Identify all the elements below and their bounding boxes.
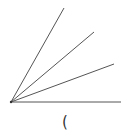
ray-line xyxy=(11,32,94,102)
ray-line xyxy=(11,64,114,102)
diagram-canvas: ( xyxy=(0,0,129,138)
origin-point xyxy=(10,101,12,103)
angle-label: ( xyxy=(62,115,68,130)
ray-line xyxy=(11,8,64,102)
